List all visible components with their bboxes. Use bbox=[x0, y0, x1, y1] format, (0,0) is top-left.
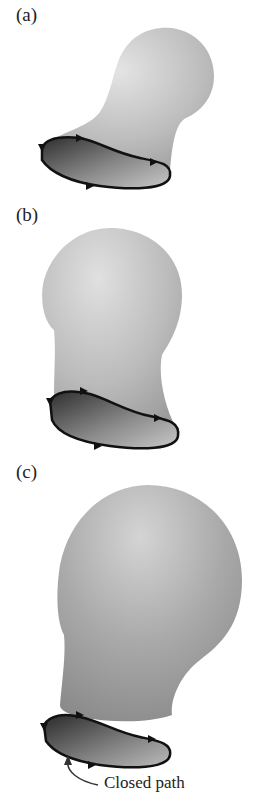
surface-b-diagram bbox=[0, 200, 256, 470]
panel-b: (b) bbox=[0, 200, 256, 470]
panel-c: (c) Closed path bbox=[0, 455, 256, 789]
surface-c bbox=[57, 485, 242, 721]
panel-a: (a) bbox=[0, 0, 256, 200]
surface-a-diagram bbox=[0, 0, 256, 200]
surface-c-diagram bbox=[0, 455, 256, 789]
closed-path-label: Closed path bbox=[104, 773, 185, 793]
